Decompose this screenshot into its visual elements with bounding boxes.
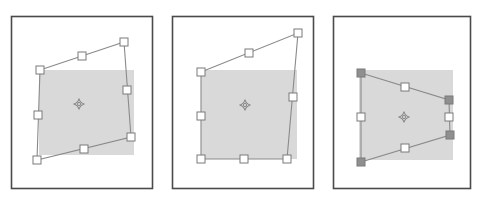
transform-panel bbox=[0, 0, 479, 204]
edge-handle-left[interactable] bbox=[357, 113, 365, 121]
panel-surface bbox=[0, 0, 479, 204]
edge-handle-right[interactable] bbox=[445, 113, 453, 121]
corner-handle-top-left[interactable] bbox=[357, 69, 365, 77]
edge-handle-top[interactable] bbox=[401, 83, 409, 91]
corner-handle-bottom-left[interactable] bbox=[357, 158, 365, 166]
corner-handle-top-right[interactable] bbox=[445, 96, 453, 104]
figure-canvas bbox=[0, 0, 479, 204]
edge-handle-bottom[interactable] bbox=[401, 144, 409, 152]
corner-handle-bottom-right[interactable] bbox=[446, 131, 454, 139]
